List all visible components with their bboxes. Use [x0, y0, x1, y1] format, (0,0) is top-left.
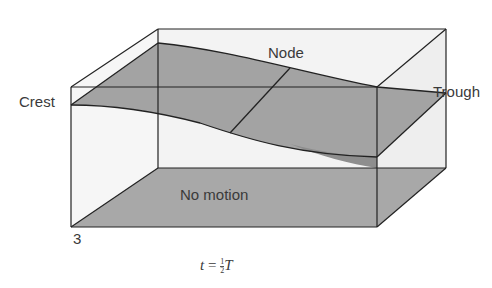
- crest-label: Crest: [19, 94, 55, 109]
- no-motion-label: No motion: [180, 187, 248, 202]
- node-label: Node: [268, 45, 304, 60]
- time-caption: t = 1 2 T: [200, 258, 232, 275]
- trough-label: Trough: [433, 84, 480, 99]
- caption-period: T: [224, 257, 232, 273]
- panel-number-label: 3: [73, 231, 81, 246]
- caption-variable: t: [200, 257, 204, 273]
- caption-equals: =: [208, 257, 216, 273]
